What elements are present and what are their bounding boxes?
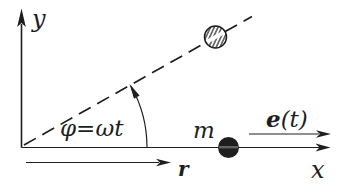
y-axis <box>17 9 26 148</box>
x-axis <box>22 144 331 152</box>
angle-label: φ=ωt <box>60 115 124 141</box>
rotating-mass-diagram: y x φ=ωt m <box>0 0 339 188</box>
unit-vector-symbol: e <box>266 105 281 132</box>
x-axis-label: x <box>311 156 325 184</box>
figure-canvas: y x φ=ωt m <box>0 0 339 188</box>
position-vector-arrow <box>26 159 171 167</box>
position-vector-label: r <box>178 157 190 181</box>
angle-arc-arrowhead <box>130 84 140 99</box>
mass-label: m <box>193 117 215 143</box>
y-axis-label: y <box>31 5 46 33</box>
angle-arc <box>130 84 148 148</box>
unit-vector-argument: (t) <box>281 106 308 132</box>
mass-body <box>218 137 239 158</box>
unit-vector-label: e(t) <box>266 105 308 132</box>
